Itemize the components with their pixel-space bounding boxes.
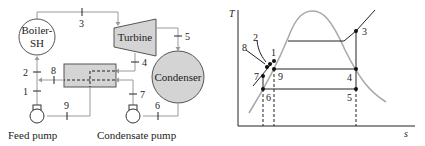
state-6-label: 6: [155, 100, 160, 111]
arrow-icon: [176, 47, 181, 51]
state-point-1: [272, 59, 276, 63]
arrow-icon: [35, 56, 40, 60]
ts-label-4: 4: [347, 72, 352, 83]
state-point-5: [354, 87, 358, 91]
boiler-label-line1: Boiler-: [22, 24, 53, 36]
ts-label-1: 1: [271, 47, 276, 58]
state-point-2: [268, 62, 272, 66]
pipe-state-5: [156, 28, 178, 50]
ts-label-5: 5: [347, 92, 352, 103]
condensate-pump-label: Condensate pump: [97, 129, 177, 141]
pipe-state-6: [143, 103, 178, 116]
cycle-schematic: 3 Boiler- SH Turbine 5 Condenser 4 7: [8, 8, 204, 141]
state-point-9: [272, 67, 276, 71]
boiler-label-line2: SH: [30, 37, 44, 49]
condenser-label: Condenser: [154, 71, 201, 83]
ts-label-9: 9: [278, 71, 283, 82]
state-point-4: [354, 67, 358, 71]
state-point-3: [354, 29, 358, 33]
ts-diagram: T s 3 4 5 6 7: [229, 8, 415, 139]
state-point-8: [265, 65, 269, 69]
state-1-label: 1: [23, 86, 28, 97]
state-2-label: 2: [23, 67, 28, 78]
ts-label-2: 2: [253, 32, 258, 43]
state-4-label: 4: [142, 57, 147, 68]
ts-label-3: 3: [362, 26, 367, 37]
turbine-label: Turbine: [118, 31, 153, 43]
state-5-label: 5: [185, 31, 190, 42]
state-point-6: [261, 87, 265, 91]
feed-pump-label: Feed pump: [8, 129, 58, 141]
x-axis-label: s: [404, 128, 408, 139]
state-3-label: 3: [79, 18, 84, 29]
state-point-7: [261, 74, 265, 78]
y-axis-label: T: [229, 8, 236, 19]
arrow-icon: [116, 22, 121, 26]
ts-label-6: 6: [266, 92, 271, 103]
condensate-pump: [126, 105, 140, 123]
state-9-label: 9: [64, 100, 69, 111]
state-8-label: 8: [51, 65, 56, 76]
ts-label-7: 7: [254, 71, 259, 82]
ts-axes: [238, 10, 415, 126]
state-7-label: 7: [140, 89, 145, 100]
ts-label-8: 8: [242, 42, 247, 53]
feed-pump: [30, 105, 44, 123]
arrow-icon: [38, 78, 42, 83]
